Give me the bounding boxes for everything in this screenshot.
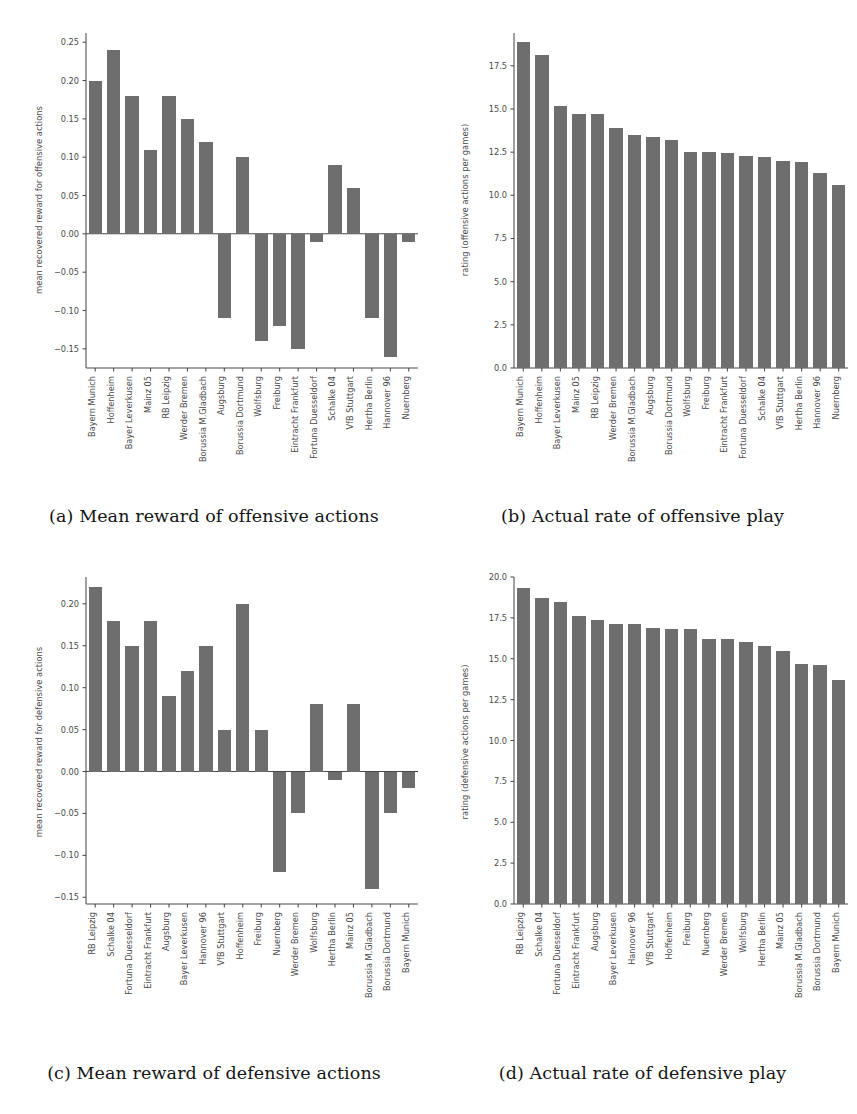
x-tick-label: Fortuna Duesseldorf — [738, 375, 748, 459]
y-tick-label: 15.0 — [489, 104, 507, 114]
x-tick-label: Hoffenheim — [235, 912, 245, 960]
bar — [365, 234, 378, 318]
y-axis-title: mean recovered reward for defensive acti… — [34, 647, 44, 837]
y-tick-label: 0.0 — [494, 363, 507, 373]
bar-chart-a: 0.250.200.150.100.050.00−0.05−0.10−0.15B… — [0, 0, 428, 500]
bar — [273, 234, 286, 326]
x-tick-label: Borussia M.Gladbach — [794, 912, 804, 998]
bar — [125, 646, 138, 772]
x-tick-label: Wolfsburg — [253, 376, 263, 417]
x-tick-label: Borussia M.Gladbach — [627, 376, 637, 462]
x-tick-label: Freiburg — [272, 376, 282, 409]
y-tick-label: 0.15 — [61, 641, 79, 651]
x-tick-label: Borussia Dortmund — [812, 912, 822, 991]
y-tick-label: −0.05 — [54, 267, 79, 277]
x-tick-label: Hoffenheim — [106, 376, 116, 424]
bar — [776, 651, 789, 904]
y-tick-label: 7.5 — [494, 233, 507, 243]
bar — [665, 140, 678, 368]
bar — [628, 624, 641, 904]
bar — [702, 152, 715, 368]
y-tick-label: 2.5 — [494, 320, 507, 330]
x-tick-label: Fortuna Duesseldorf — [124, 911, 134, 995]
bar — [646, 137, 659, 368]
x-tick-label: Mainz 05 — [775, 912, 785, 949]
y-tick-label: 5.0 — [494, 277, 507, 287]
x-tick-label: Augsburg — [590, 912, 600, 951]
x-tick-label: Augsburg — [161, 912, 171, 951]
chart-b-area: 17.515.012.510.07.55.02.50.0Bayern Munic… — [428, 0, 857, 500]
x-tick-label: Borussia Dortmund — [235, 376, 245, 455]
bar — [107, 621, 120, 772]
x-tick-label: Hertha Berlin — [327, 912, 337, 966]
bar — [384, 772, 397, 814]
x-tick-label: Hoffenheim — [664, 912, 674, 960]
bar — [310, 704, 323, 771]
panel-c: 0.200.150.100.050.00−0.05−0.10−0.15RB Le… — [0, 557, 428, 1114]
x-tick-label: Schalke 04 — [106, 912, 116, 957]
y-tick-label: 5.0 — [494, 817, 507, 827]
bar — [181, 671, 194, 772]
bar — [702, 639, 715, 904]
y-tick-label: 0.05 — [61, 191, 79, 201]
x-tick-label: Wolfsburg — [682, 376, 692, 417]
bar — [310, 234, 323, 242]
y-tick-label: −0.05 — [54, 808, 79, 818]
y-tick-label: −0.15 — [54, 344, 79, 354]
x-tick-label: VfB Stuttgart — [645, 911, 655, 965]
bar — [739, 642, 752, 904]
bar — [609, 624, 622, 904]
bar — [517, 588, 530, 904]
x-tick-label: Werder Bremen — [719, 912, 729, 976]
bar — [795, 162, 808, 368]
bar — [609, 128, 622, 368]
x-tick-label: Eintracht Frankfurt — [290, 375, 300, 453]
x-tick-label: Hertha Berlin — [794, 376, 804, 430]
x-tick-label: Bayer Leverkusen — [124, 376, 134, 449]
x-tick-label: Freiburg — [682, 912, 692, 945]
bar — [236, 604, 249, 772]
x-tick-label: Mainz 05 — [571, 376, 581, 413]
bar — [517, 42, 530, 368]
x-tick-label: Schalke 04 — [327, 376, 337, 421]
y-axis-title: rating (defensive actions per games) — [460, 665, 470, 820]
x-tick-label: Bayern Munich — [401, 912, 411, 973]
bar — [591, 620, 604, 904]
y-tick-label: −0.10 — [54, 850, 79, 860]
bar — [832, 185, 845, 368]
bar — [328, 165, 341, 234]
bar — [554, 106, 567, 368]
y-tick-label: −0.10 — [54, 306, 79, 316]
y-tick-label: 20.0 — [489, 572, 507, 582]
bar — [199, 142, 212, 234]
bar — [236, 157, 249, 234]
bar — [162, 696, 175, 771]
bar — [181, 119, 194, 234]
y-axis-title: mean recovered reward for offensive acti… — [34, 106, 44, 294]
bar — [218, 730, 231, 772]
y-tick-label: 0.05 — [61, 725, 79, 735]
bar — [721, 639, 734, 904]
x-tick-label: RB Leipzig — [515, 912, 525, 955]
bar — [365, 772, 378, 889]
y-tick-label: 0.00 — [61, 229, 79, 239]
y-tick-label: 17.5 — [489, 613, 507, 623]
x-tick-label: Fortuna Duesseldorf — [309, 375, 319, 459]
x-tick-label: Hannover 96 — [382, 376, 392, 429]
x-tick-label: RB Leipzig — [87, 912, 97, 955]
y-tick-label: 15.0 — [489, 654, 507, 664]
panel-b: 17.515.012.510.07.55.02.50.0Bayern Munic… — [428, 0, 857, 557]
bar — [739, 156, 752, 368]
x-tick-label: Eintracht Frankfurt — [719, 375, 729, 453]
x-tick-label: Bayern Munich — [87, 376, 97, 437]
bar — [255, 730, 268, 772]
bar — [535, 55, 548, 368]
x-tick-label: Borussia M.Gladbach — [198, 376, 208, 462]
x-tick-label: Nuernberg — [401, 376, 411, 419]
bar — [813, 173, 826, 368]
x-tick-label: Werder Bremen — [290, 912, 300, 976]
x-tick-label: Borussia M.Gladbach — [364, 912, 374, 998]
bar — [758, 646, 771, 904]
y-tick-label: 10.0 — [489, 190, 507, 200]
bar — [535, 598, 548, 904]
